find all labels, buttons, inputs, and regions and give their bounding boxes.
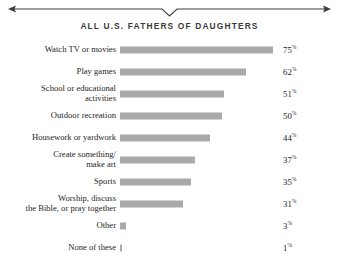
bar-category-label: Sports: [4, 177, 116, 187]
bar-value-label: 62%: [283, 67, 296, 77]
chart-row: Sports35%: [0, 171, 339, 193]
bar-value-number: 35: [283, 177, 292, 187]
chart-row: School or educational activities51%: [0, 83, 339, 105]
bar-chart-rows: Watch TV or movies75%Play games62%School…: [0, 39, 339, 259]
bar-value-number: 44: [283, 133, 292, 143]
bar-track: [120, 201, 183, 208]
bar-value-number: 62: [283, 67, 292, 77]
bar: [120, 91, 224, 98]
bar: [120, 201, 183, 208]
bar-value-number: 31: [283, 199, 292, 209]
bar-value-number: 50: [283, 111, 292, 121]
chart-row: Other3%: [0, 215, 339, 237]
page-title: ALL U.S. FATHERS OF DAUGHTERS: [0, 21, 339, 31]
bar: [120, 47, 273, 54]
bar-track: [120, 47, 273, 54]
chart-row: None of these1%: [0, 237, 339, 259]
percent-sign: %: [292, 176, 297, 182]
percent-sign: %: [292, 88, 297, 94]
bar-category-label: None of these: [4, 243, 116, 253]
chart-row: Play games62%: [0, 61, 339, 83]
bar-value-label: 1%: [283, 243, 292, 253]
bar-value-label: 51%: [283, 89, 296, 99]
bar-value-label: 44%: [283, 133, 296, 143]
percent-sign: %: [292, 132, 297, 138]
chart-row: Housework or yardwork44%: [0, 127, 339, 149]
bar-track: [120, 135, 210, 142]
bar: [120, 135, 210, 142]
chart-row: Create something/ make art37%: [0, 149, 339, 171]
percent-sign: %: [292, 44, 297, 50]
percent-sign: %: [287, 220, 292, 226]
bar: [120, 113, 222, 120]
bar-category-label: Watch TV or movies: [4, 45, 116, 55]
percent-sign: %: [287, 242, 292, 248]
bar: [120, 69, 246, 76]
bar-value-number: 75: [283, 45, 292, 55]
bar-track: [120, 113, 222, 120]
bar-value-label: 50%: [283, 111, 296, 121]
bar-category-label: Other: [4, 221, 116, 231]
chart-row: Worship, discuss the Bible, or pray toge…: [0, 193, 339, 215]
bar-value-label: 75%: [283, 45, 296, 55]
bar-category-label: Outdoor recreation: [4, 111, 116, 121]
bar-value-label: 37%: [283, 155, 296, 165]
percent-sign: %: [292, 198, 297, 204]
bar-value-number: 51: [283, 89, 292, 99]
arrow-rule-with-center-notch-icon: [0, 0, 339, 22]
bar-track: [120, 69, 246, 76]
bar-value-label: 35%: [283, 177, 296, 187]
bar-category-label: Worship, discuss the Bible, or pray toge…: [4, 194, 116, 213]
bar-category-label: Play games: [4, 67, 116, 77]
chart-row: Watch TV or movies75%: [0, 39, 339, 61]
bar-category-label: School or educational activities: [4, 84, 116, 103]
bar-value-number: 37: [283, 155, 292, 165]
bar-value-label: 31%: [283, 199, 296, 209]
bar-track: [120, 179, 191, 186]
bar-track: [120, 245, 122, 252]
percent-sign: %: [292, 66, 297, 72]
bar: [120, 179, 191, 186]
bar: [120, 223, 126, 230]
bar-track: [120, 223, 126, 230]
decorative-top-rule: [0, 0, 339, 22]
bar-value-label: 3%: [283, 221, 292, 231]
bar-track: [120, 91, 224, 98]
bar: [120, 157, 195, 164]
bar-category-label: Housework or yardwork: [4, 133, 116, 143]
bar-track: [120, 157, 195, 164]
chart-row: Outdoor recreation50%: [0, 105, 339, 127]
percent-sign: %: [292, 154, 297, 160]
bar-category-label: Create something/ make art: [4, 150, 116, 169]
percent-sign: %: [292, 110, 297, 116]
bar: [120, 245, 122, 252]
